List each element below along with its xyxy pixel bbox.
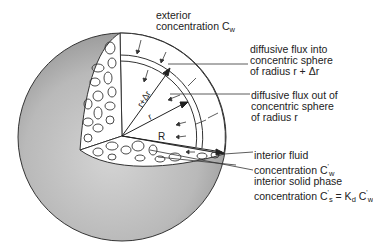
label-line: concentration C's = Kd C'w — [254, 187, 373, 205]
subscript: w — [368, 195, 373, 204]
label-text: concentration C — [254, 164, 328, 176]
label-line: interior solid phase — [254, 176, 373, 187]
radius-label-R: R — [158, 131, 165, 142]
label-interior-solid: interior solid phase concentration C's =… — [254, 176, 373, 205]
label-exterior-concentration: exterior concentration Cw — [156, 10, 235, 35]
label-line: interior fluid — [254, 150, 334, 161]
cutaway-wedge — [120, 33, 225, 154]
subscript: w — [230, 25, 235, 34]
label-text: = K — [333, 190, 352, 202]
label-flux-into: diffusive flux into concentric sphere of… — [250, 44, 333, 77]
label-line: concentration Cw — [156, 21, 235, 35]
label-text: concentration C — [254, 190, 328, 202]
label-line: of radius r + Δr — [250, 66, 333, 77]
label-text: C — [356, 190, 367, 202]
label-line: of radius r — [251, 112, 338, 123]
label-flux-out: diffusive flux out of concentric sphere … — [251, 90, 338, 123]
label-text: concentration C — [156, 20, 230, 32]
